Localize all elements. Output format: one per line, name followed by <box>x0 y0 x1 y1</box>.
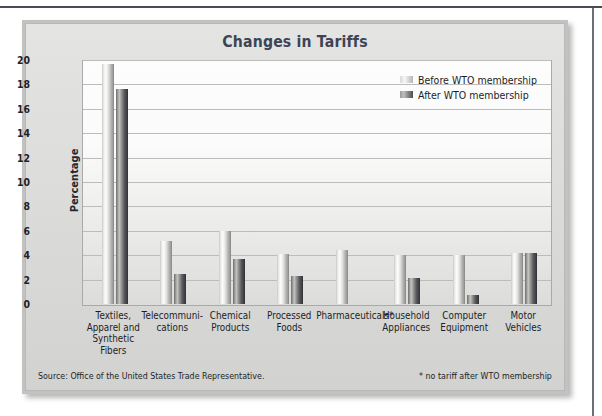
y-axis-tick-label: 2 <box>8 274 30 287</box>
bar-before <box>336 250 348 304</box>
x-axis-category-label-line: Products <box>199 322 261 334</box>
bar-before <box>102 64 114 304</box>
x-axis-category-label: HouseholdAppliances <box>375 310 437 333</box>
x-axis-category-label-line: cations <box>141 322 203 334</box>
y-axis-tick-label: 20 <box>8 54 30 67</box>
legend-swatch-after <box>400 91 413 98</box>
bar-group <box>336 60 361 304</box>
source-note: Source: Office of the United States Trad… <box>38 371 264 381</box>
bar-group <box>219 60 244 304</box>
legend-label: Before WTO membership <box>418 74 537 86</box>
x-axis-category-label-line: Motor <box>492 310 554 322</box>
x-axis-category-label: Pharmaceuticals* <box>316 310 378 322</box>
x-axis-category-label-line: Pharmaceuticals* <box>316 310 378 322</box>
x-axis-category-label-line: Textiles, <box>82 310 144 322</box>
gridline <box>83 231 551 232</box>
x-axis-category-label-line: Foods <box>258 322 320 334</box>
bar-after <box>525 253 537 304</box>
y-axis-tick-label: 4 <box>8 249 30 262</box>
legend-item: Before WTO membership <box>400 72 548 87</box>
bar-after <box>233 259 245 304</box>
bar-after <box>467 295 479 304</box>
y-axis-tick-label: 0 <box>8 298 30 311</box>
bar-before <box>277 254 289 304</box>
page-right-rule <box>592 8 594 416</box>
bar-before <box>453 255 465 304</box>
x-axis-category-label-line: Processed <box>258 310 320 322</box>
x-axis-category-label-line: Household <box>375 310 437 322</box>
bar-group <box>102 60 127 304</box>
gridline <box>83 109 551 110</box>
chart-figure-inner: Changes in Tariffs Percentage 2018161412… <box>25 23 565 391</box>
gridline <box>83 158 551 159</box>
bar-before <box>160 241 172 304</box>
bar-after <box>174 274 186 305</box>
gridline <box>83 255 551 256</box>
y-axis-tick-label: 12 <box>8 152 30 165</box>
bar-before <box>511 253 523 304</box>
x-axis-category-label-line: Appliances <box>375 322 437 334</box>
page-top-rule <box>0 6 602 8</box>
x-axis-category-label-line: Telecommuni- <box>141 310 203 322</box>
gridline <box>83 182 551 183</box>
legend-swatch-before <box>400 76 413 83</box>
asterisk-footnote: * no tariff after WTO membership <box>419 371 552 381</box>
bar-after <box>291 276 303 304</box>
page-background: Changes in Tariffs Percentage 2018161412… <box>0 0 602 416</box>
x-axis-category-label-line: Computer <box>433 310 495 322</box>
chart-figure: Changes in Tariffs Percentage 2018161412… <box>22 20 568 394</box>
x-axis-category-label-line: Chemical <box>199 310 261 322</box>
y-axis-title: Percentage <box>68 127 81 235</box>
bar-before <box>219 231 231 304</box>
gridline <box>83 133 551 134</box>
gridline <box>83 206 551 207</box>
x-axis-category-label: Telecommuni-cations <box>141 310 203 333</box>
x-axis-category-label: ComputerEquipment <box>433 310 495 333</box>
y-axis-tick-label: 14 <box>8 127 30 140</box>
x-axis-category-label-line: Vehicles <box>492 322 554 334</box>
x-axis-category-label: Textiles,Apparel andSynthetic Fibers <box>82 310 144 356</box>
bar-after <box>116 89 128 304</box>
y-axis-tick-label: 6 <box>8 225 30 238</box>
x-axis-category-label-line: Equipment <box>433 322 495 334</box>
x-axis-category-label: ChemicalProducts <box>199 310 261 333</box>
bar-group <box>160 60 185 304</box>
bar-before <box>394 255 406 304</box>
x-axis-category-label: ProcessedFoods <box>258 310 320 333</box>
x-axis-category-label: MotorVehicles <box>492 310 554 333</box>
y-axis-tick-label: 10 <box>8 176 30 189</box>
legend-item: After WTO membership <box>400 87 548 102</box>
chart-legend: Before WTO membershipAfter WTO membershi… <box>400 72 548 102</box>
x-axis-category-label-line: Synthetic Fibers <box>82 333 144 356</box>
chart-title: Changes in Tariffs <box>58 32 531 51</box>
bar-after <box>408 278 420 304</box>
bar-group <box>277 60 302 304</box>
gridline <box>83 280 551 281</box>
y-axis-tick-label: 8 <box>8 200 30 213</box>
x-axis-category-label-line: Apparel and <box>82 322 144 334</box>
legend-label: After WTO membership <box>418 89 529 101</box>
y-axis-tick-label: 18 <box>8 78 30 91</box>
y-axis-tick-label: 16 <box>8 103 30 116</box>
